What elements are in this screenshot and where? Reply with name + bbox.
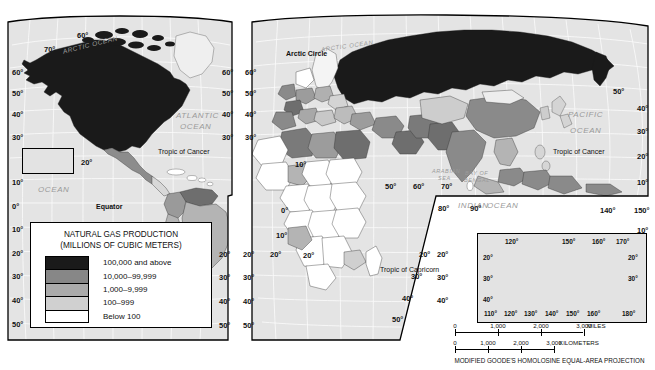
natural-gas-production-map: ARCTIC OCEANATLANTICOCEANPACIFICOCEANARC… <box>0 0 655 370</box>
map-legend: NATURAL GAS PRODUCTION (MILLIONS OF CUBI… <box>30 222 212 328</box>
scale-tick <box>498 329 499 336</box>
legend-title: NATURAL GAS PRODUCTION (MILLIONS OF CUBI… <box>31 229 211 251</box>
scale-tick-label: 1,000 <box>490 322 505 329</box>
legend-row: 1,000–9,999 <box>45 283 211 296</box>
legend-row: 10,000–99,999 <box>45 269 211 282</box>
legend-swatch <box>45 269 89 282</box>
projection-note: MODIFIED GOODE'S HOMOLOSINE EQUAL-AREA P… <box>447 357 652 364</box>
scale-tick <box>455 346 456 353</box>
region-korea <box>540 106 550 120</box>
scale-km-unit: KILOMETERS <box>559 339 599 346</box>
scale-tick-label: 2,000 <box>513 339 528 346</box>
scale-miles-line <box>455 332 583 333</box>
legend-label: 10,000–99,999 <box>103 272 156 281</box>
legend-swatch <box>45 256 89 269</box>
legend-swatch <box>45 283 89 296</box>
scale-tick <box>488 346 489 353</box>
scale-tick-label: 1,000 <box>480 339 495 346</box>
legend-title-main: NATURAL GAS PRODUCTION <box>31 229 211 240</box>
scale-km-line <box>455 349 555 350</box>
legend-row: Below 100 <box>45 310 211 323</box>
scale-km: 01,0002,0003,000 KILOMETERS <box>447 344 647 356</box>
legend-class-list: 100,000 and above10,000–99,9991,000–9,99… <box>45 256 211 323</box>
hawaii-inset-frame <box>22 148 74 174</box>
legend-label: 100,000 and above <box>103 258 172 267</box>
legend-label: Below 100 <box>103 312 140 321</box>
scale-tick <box>584 329 585 336</box>
scale-miles: 01,0002,0003,000 MILES <box>447 327 647 339</box>
australia-inset-frame <box>477 233 647 323</box>
legend-title-units: (MILLIONS OF CUBIC METERS) <box>31 240 211 251</box>
legend-row: 100–999 <box>45 296 211 309</box>
scale-tick <box>455 329 456 336</box>
scale-tick <box>541 329 542 336</box>
scale-tick-label: 0 <box>453 322 456 329</box>
scale-tick-label: 0 <box>453 339 456 346</box>
scale-tick <box>554 346 555 353</box>
scale-tick-label: 2,000 <box>533 322 548 329</box>
legend-row: 100,000 and above <box>45 256 211 269</box>
scale-miles-unit: MILES <box>587 322 606 329</box>
region-sri-lanka <box>467 182 473 191</box>
legend-label: 1,000–9,999 <box>103 285 148 294</box>
legend-label: 100–999 <box>103 298 134 307</box>
legend-swatch <box>45 310 89 323</box>
legend-swatch <box>45 296 89 309</box>
scale-tick <box>521 346 522 353</box>
